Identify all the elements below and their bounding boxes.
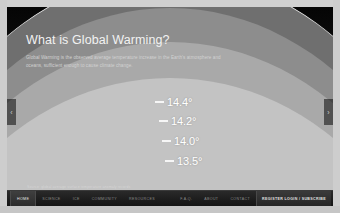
temperature-label-0: 14.4° (155, 96, 192, 108)
page-frame-left (0, 0, 7, 213)
nav-item-about[interactable]: ABOUT (198, 191, 224, 206)
tick-marker-icon (159, 120, 168, 121)
chevron-right-icon[interactable]: › (324, 99, 333, 125)
source-caption: Source: global average surface temperatu… (27, 185, 130, 189)
temperature-label-3: 13.5° (165, 155, 202, 167)
page-title: What is Global Warming? (26, 33, 170, 47)
temperature-value: 14.0° (174, 135, 199, 147)
temperature-value: 13.5° (177, 155, 202, 167)
tick-marker-icon (162, 140, 171, 141)
temperature-value: 14.2° (171, 115, 196, 127)
temperature-label-2: 14.0° (162, 135, 199, 147)
slide-description: Global Warming is the observed average t… (26, 54, 226, 70)
temperature-value: 14.4° (167, 96, 192, 108)
nav-item-resources[interactable]: RESOURCES (123, 191, 161, 206)
page-frame-bottom (0, 206, 340, 213)
tick-marker-icon (165, 160, 174, 161)
nav-item-home[interactable]: HOME (10, 191, 36, 206)
tick-marker-icon (155, 101, 164, 102)
temperature-label-1: 14.2° (159, 115, 196, 127)
nav-item-ice[interactable]: ICE (67, 191, 86, 206)
register-login-button[interactable]: REGISTER LOGIN / SUBSCRIBE (256, 191, 331, 206)
chevron-left-icon[interactable]: ‹ (7, 99, 16, 125)
page-frame-top (0, 0, 340, 7)
nav-item-science[interactable]: SCIENCE (36, 191, 66, 206)
nav-item-faq[interactable]: F.A.Q. (174, 191, 198, 206)
primary-nav-group: HOME SCIENCE ICE COMMUNITY RESOURCES (10, 191, 161, 206)
browser-page: What is Global Warming? Global Warming i… (0, 0, 340, 213)
hero-slide: What is Global Warming? Global Warming i… (7, 7, 333, 206)
nav-item-community[interactable]: COMMUNITY (86, 191, 123, 206)
nav-item-contact[interactable]: CONTACT (224, 191, 256, 206)
secondary-nav-group: F.A.Q. ABOUT CONTACT REGISTER LOGIN / SU… (174, 191, 333, 206)
nav-spacer (161, 191, 174, 206)
bottom-navigation-bar: HOME SCIENCE ICE COMMUNITY RESOURCES F.A… (7, 190, 333, 206)
page-frame-right (333, 0, 340, 213)
